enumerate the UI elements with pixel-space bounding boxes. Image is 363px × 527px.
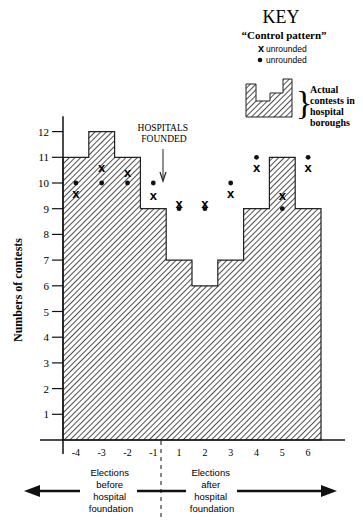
hospitals-founded-annotation: HOSPITALS FOUNDED — [138, 123, 191, 181]
x-tick-label: 4 — [254, 447, 259, 458]
hatched-step-bars — [63, 132, 321, 440]
hospitals-founded-label: HOSPITALS FOUNDED — [138, 123, 191, 144]
control-x-marker: x — [124, 165, 132, 180]
control-x-marker: x — [98, 160, 106, 175]
y-tick-label: 1 — [44, 408, 50, 420]
legend-subtitle: “Control pattern” — [241, 29, 326, 41]
after-foundation-label: Elections after hospital foundation — [190, 467, 234, 514]
control-x-marker: x — [253, 160, 261, 175]
control-dot-marker — [125, 181, 130, 186]
y-tick-label: 9 — [44, 203, 50, 215]
control-x-marker: x — [201, 196, 209, 211]
control-x-marker: x — [279, 188, 287, 203]
x-tick-label: -4 — [72, 447, 80, 458]
y-tick-label: 5 — [44, 306, 50, 318]
control-dot-marker — [99, 181, 104, 186]
control-x-marker: x — [304, 160, 312, 175]
control-x-marker: x — [150, 188, 158, 203]
y-tick-label: 8 — [44, 228, 50, 240]
y-tick-label: 12 — [38, 126, 49, 138]
legend-x-label: unrounded — [266, 44, 307, 54]
control-dot-marker — [151, 181, 156, 186]
control-dot-marker — [306, 155, 311, 160]
x-tick-label: 6 — [306, 447, 311, 458]
y-axis-label: Numbers of contests — [11, 238, 25, 342]
control-dot-marker — [254, 155, 259, 160]
y-tick-label: 7 — [44, 254, 50, 266]
before-foundation-label: Elections before hospital foundation — [89, 467, 133, 514]
y-tick-label: 10 — [38, 177, 50, 189]
legend-x-marker-icon: x — [258, 42, 265, 54]
control-x-marker: x — [175, 196, 183, 211]
control-dot-marker — [74, 181, 79, 186]
y-tick-label: 2 — [44, 383, 50, 395]
actual-contests-bars — [63, 132, 321, 440]
right-arrow-icon — [321, 485, 337, 497]
y-tick-label: 4 — [44, 331, 50, 343]
y-tick-label: 6 — [44, 280, 50, 292]
x-tick-label: -3 — [98, 447, 106, 458]
legend-dot-label: unrounded — [266, 55, 307, 65]
y-tick-label: 3 — [44, 357, 50, 369]
left-arrow-icon — [24, 485, 40, 497]
chart-canvas: xxxxxxxxxx 123456789101112-4-3-2-1123456… — [0, 0, 363, 527]
x-tick-label: 5 — [280, 447, 285, 458]
legend-hatch-swatch — [246, 79, 292, 117]
x-tick-label: 1 — [177, 447, 182, 458]
x-tick-label: -1 — [149, 447, 157, 458]
x-tick-label: -2 — [123, 447, 131, 458]
control-dot-marker — [280, 206, 285, 211]
x-tick-label: 2 — [202, 447, 207, 458]
control-x-marker: x — [72, 186, 80, 201]
legend-title: KEY — [263, 7, 300, 27]
x-tick-label: 3 — [228, 447, 233, 458]
control-dot-marker — [228, 181, 233, 186]
legend-dot-icon — [258, 58, 263, 63]
y-tick-label: 11 — [38, 151, 49, 163]
legend: KEY “Control pattern” x unrounded unroun… — [241, 7, 357, 128]
legend-actual-label: Actual contests in hospital boroughs — [310, 84, 357, 128]
control-x-marker: x — [227, 186, 235, 201]
